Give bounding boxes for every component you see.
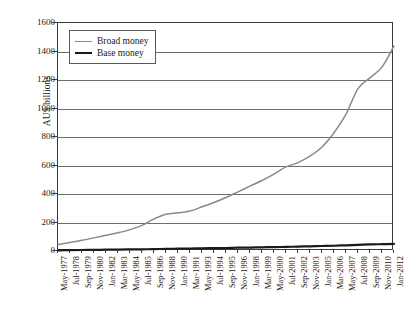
x-axis-tick-label-text: Nov-1988	[168, 256, 177, 314]
x-axis-tick-label-text: May-2000	[276, 256, 285, 314]
x-axis-tick-mark	[177, 250, 178, 253]
x-axis-tick-label: Mar-1983	[120, 198, 129, 256]
x-axis-tick-label-text: Jan-2005	[324, 256, 333, 314]
chart-legend: Broad money Base money	[69, 30, 156, 64]
x-axis-tick-mark	[201, 250, 202, 253]
x-axis-tick-label-text: Nov-1980	[96, 256, 105, 314]
x-axis-tick-label-text: Mar-1999	[264, 256, 273, 314]
x-axis-tick-mark	[69, 250, 70, 253]
x-axis-tick-label: Jan-2005	[324, 198, 333, 256]
y-axis-tick-label: 1000	[11, 103, 55, 112]
x-axis-tick-mark	[153, 250, 154, 253]
x-axis-tick-label: Mar-2006	[336, 198, 345, 256]
x-axis-tick-label: May-1993	[204, 198, 213, 256]
legend-swatch-base-money	[75, 52, 92, 54]
x-axis-tick-label: Sep-2002	[300, 198, 309, 256]
x-axis-tick-label: Sep-1995	[228, 198, 237, 256]
legend-item-base-money: Base money	[75, 47, 148, 59]
x-axis-tick-label: Sep-1979	[84, 198, 93, 256]
x-axis-tick-label-text: Mar-2006	[336, 256, 345, 314]
x-axis-tick-label: May-2007	[348, 198, 357, 256]
x-axis-tick-label-text: Sep-1979	[84, 256, 93, 314]
x-axis-tick-label-text: May-1977	[60, 256, 69, 314]
y-axis-tick-label: 200	[11, 217, 55, 226]
x-axis-tick-label-text: Nov-2010	[384, 256, 393, 314]
x-axis-tick-label: May-1984	[132, 198, 141, 256]
x-axis-tick-mark	[333, 250, 334, 253]
x-axis-tick-label-text: Mar-1991	[192, 256, 201, 314]
x-axis-tick-mark	[297, 250, 298, 253]
x-axis-tick-mark	[369, 250, 370, 253]
x-axis-tick-mark	[93, 250, 94, 253]
legend-label-base-money: Base money	[97, 47, 144, 59]
y-axis-tick-label: 1600	[11, 18, 55, 27]
x-axis-tick-mark	[189, 250, 190, 253]
x-axis-tick-label-text: Nov-2003	[312, 256, 321, 314]
x-axis-tick-label-text: Sep-2009	[372, 256, 381, 314]
x-axis-tick-label-text: Jul-1985	[144, 256, 153, 314]
x-axis-tick-label: May-2000	[276, 198, 285, 256]
x-axis-tick-mark	[345, 250, 346, 253]
y-axis-tick-label: 400	[11, 189, 55, 198]
x-axis-tick-label: Jan-1982	[108, 198, 117, 256]
x-axis-tick-mark	[129, 250, 130, 253]
x-axis-tick-mark	[249, 250, 250, 253]
x-axis-tick-mark	[225, 250, 226, 253]
legend-label-broad-money: Broad money	[97, 35, 148, 47]
x-axis-tick-label-text: May-1993	[204, 256, 213, 314]
legend-item-broad-money: Broad money	[75, 35, 148, 47]
x-axis-tick-mark	[57, 250, 58, 253]
y-axis-tick-label: 800	[11, 132, 55, 141]
x-axis-tick-label: Sep-2009	[372, 198, 381, 256]
x-axis-tick-label-text: Sep-1995	[228, 256, 237, 314]
x-axis-tick-label-text: Jul-2001	[288, 256, 297, 314]
x-axis-tick-mark	[165, 250, 166, 253]
x-axis-tick-label: Nov-1996	[240, 198, 249, 256]
x-axis-ticks: May-1977Jul-1978Sep-1979Nov-1980Jan-1982…	[57, 251, 393, 314]
x-axis-tick-mark	[117, 250, 118, 253]
x-axis-tick-label: Jul-2008	[360, 198, 369, 256]
x-axis-tick-label: Nov-1988	[168, 198, 177, 256]
x-axis-tick-label-text: Sep-2002	[300, 256, 309, 314]
x-axis-tick-label: May-1977	[60, 198, 69, 256]
y-axis-tick-label: 1200	[11, 75, 55, 84]
y-axis-tick-label: 1400	[11, 46, 55, 55]
x-axis-tick-label-text: Jan-2012	[396, 256, 404, 314]
y-axis-tick-label: 0	[11, 246, 55, 255]
x-axis-tick-label: Jul-1994	[216, 198, 225, 256]
x-axis-tick-label-text: Jan-1990	[180, 256, 189, 314]
x-axis-tick-label: Jan-1990	[180, 198, 189, 256]
x-axis-tick-mark	[321, 250, 322, 253]
line-chart: AU$ billions 020040060080010001200140016…	[0, 0, 404, 314]
x-axis-tick-label: Mar-1999	[264, 198, 273, 256]
x-axis-tick-label: Jan-2012	[396, 198, 404, 256]
x-axis-tick-label-text: May-2007	[348, 256, 357, 314]
x-axis-tick-mark	[261, 250, 262, 253]
x-axis-tick-mark	[309, 250, 310, 253]
x-axis-tick-label-text: Jul-1978	[72, 256, 81, 314]
x-axis-tick-mark	[237, 250, 238, 253]
x-axis-tick-label-text: Jan-1998	[252, 256, 261, 314]
x-axis-tick-label-text: Jan-1982	[108, 256, 117, 314]
x-axis-tick-mark	[141, 250, 142, 253]
x-axis-tick-mark	[213, 250, 214, 253]
x-axis-tick-mark	[81, 250, 82, 253]
x-axis-tick-label: Mar-1991	[192, 198, 201, 256]
x-axis-tick-label: Jan-1998	[252, 198, 261, 256]
x-axis-tick-label-text: Nov-1996	[240, 256, 249, 314]
x-axis-tick-mark	[393, 250, 394, 253]
x-axis-tick-mark	[381, 250, 382, 253]
x-axis-tick-label: Jul-2001	[288, 198, 297, 256]
x-axis-tick-label: Nov-1980	[96, 198, 105, 256]
x-axis-tick-label-text: Jul-1994	[216, 256, 225, 314]
x-axis-tick-label: Jul-1985	[144, 198, 153, 256]
x-axis-tick-label-text: May-1984	[132, 256, 141, 314]
x-axis-tick-label: Jul-1978	[72, 198, 81, 256]
x-axis-tick-label-text: Sep-1986	[156, 256, 165, 314]
y-axis-tick-label: 600	[11, 160, 55, 169]
x-axis-tick-mark	[273, 250, 274, 253]
x-axis-tick-label: Nov-2003	[312, 198, 321, 256]
x-axis-tick-label-text: Mar-1983	[120, 256, 129, 314]
x-axis-tick-mark	[357, 250, 358, 253]
x-axis-tick-label-text: Jul-2008	[360, 256, 369, 314]
